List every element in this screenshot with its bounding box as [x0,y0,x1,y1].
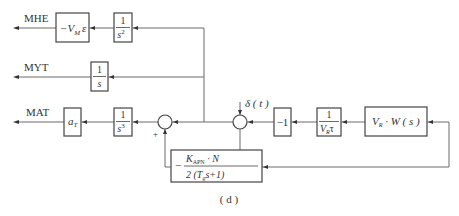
arrow-icon [133,120,138,124]
figure-caption: ( d ) [220,193,239,206]
arrow-icon [133,26,138,30]
arrow-icon [90,26,95,30]
summing-junction-2 [233,115,247,129]
feedback-denominator: 2 (Tgs+1) [186,169,225,181]
feedback-arrow-icon [263,165,268,169]
disturbance-label: δ ( t ) [245,97,269,110]
block-int2-num: 1 [121,15,126,26]
arrow-icon [163,129,167,134]
myt-arrow-icon [13,75,19,79]
sum1-plus-sign: + [153,129,158,139]
block-neg1-label: −1 [277,116,289,128]
arrow-icon [428,120,433,124]
arrow-icon [82,120,87,124]
block-int1-den: s [98,78,102,89]
arrow-icon [173,120,178,124]
disturbance-arrow-icon [238,110,242,115]
block-int3-num: 1 [121,109,126,120]
summing-junction-1 [158,115,172,129]
arrow-icon [109,75,114,79]
block-inv-vr-tau-num: 1 [327,109,332,120]
mhe-arrow-icon [13,26,19,30]
block-diagram: MHE −VMε 1 s2 MYT 1 s MAT aT 1 s3 + [0,0,459,216]
block-int1-num: 1 [97,64,102,75]
mhe-label: MHE [24,12,49,24]
feedback-sign: − [175,159,181,171]
arrow-icon [248,120,253,124]
mat-arrow-icon [13,120,19,124]
myt-label: MYT [24,61,49,73]
arrow-icon [342,120,347,124]
mat-label: MAT [26,106,50,118]
arrow-icon [292,120,297,124]
